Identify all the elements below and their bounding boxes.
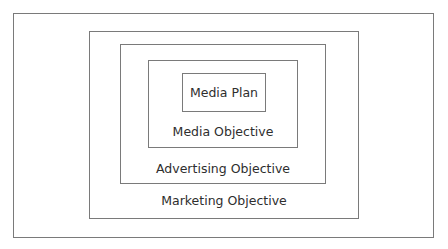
advertising-objective-label: Advertising Objective (121, 161, 325, 176)
media-objective-label: Media Objective (149, 124, 297, 139)
marketing-objective-label: Marketing Objective (90, 193, 358, 208)
media-plan-label: Media Plan (183, 85, 265, 100)
media-plan-box: Media Plan (182, 73, 266, 112)
